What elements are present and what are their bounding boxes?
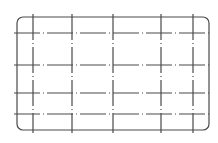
vertical-grid-lines [33, 14, 193, 133]
grid-drawing [0, 0, 218, 143]
grid-diagram [0, 0, 218, 143]
